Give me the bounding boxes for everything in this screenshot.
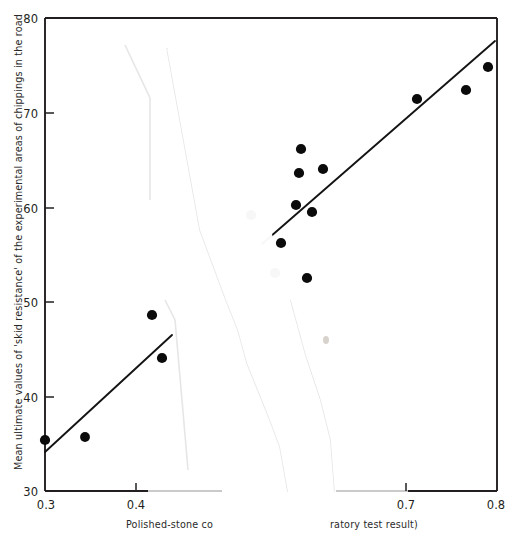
y-tick-label-30: 30 — [23, 485, 38, 499]
y-axis-title: Mean ultimate values of 'skid resistance… — [13, 14, 24, 470]
data-point — [296, 144, 306, 154]
right-group-fit-line — [262, 41, 495, 244]
data-point — [461, 85, 471, 95]
data-point — [80, 432, 90, 442]
x-tick-label-0-4: 0.4 — [127, 498, 145, 512]
x-axis-tick-labels: 0.3 0.4 0.7 0.8 — [37, 498, 505, 512]
scatter-points-right-group — [246, 62, 493, 283]
data-point — [147, 310, 157, 320]
data-point — [318, 164, 328, 174]
x-axis-title-left-fragment: Polished-stone co — [126, 519, 213, 530]
data-point — [412, 94, 422, 104]
y-tick-label-50: 50 — [23, 296, 38, 310]
overlay-speck — [323, 336, 329, 344]
data-point — [276, 238, 286, 248]
scan-fold-overlay — [125, 40, 334, 492]
overlay-fold-edge-upper-left — [125, 45, 150, 200]
x-axis-ticks — [136, 483, 406, 491]
data-point — [483, 62, 493, 72]
x-tick-label-0-7: 0.7 — [397, 498, 415, 512]
data-point — [302, 273, 312, 283]
scatter-plot-figure: 80 70 60 50 40 30 0.3 0.4 0.7 0.8 Polish… — [0, 0, 516, 548]
plot-canvas: 80 70 60 50 40 30 0.3 0.4 0.7 0.8 Polish… — [0, 0, 516, 548]
data-point — [294, 168, 304, 178]
y-tick-label-40: 40 — [23, 391, 38, 405]
y-tick-label-60: 60 — [23, 202, 38, 216]
x-tick-label-0-8: 0.8 — [487, 498, 505, 512]
y-tick-label-70: 70 — [23, 107, 38, 121]
x-axis-title-right-fragment: ratory test result) — [330, 519, 418, 530]
data-point — [291, 200, 301, 210]
left-group-fit-line — [45, 335, 172, 452]
y-tick-label-80: 80 — [23, 12, 38, 26]
data-point — [40, 435, 50, 445]
data-point — [157, 353, 167, 363]
data-point — [307, 207, 317, 217]
overlay-fold-edge-lower-left — [165, 300, 188, 470]
y-axis-tick-labels: 80 70 60 50 40 30 — [23, 12, 38, 499]
x-tick-label-0-3: 0.3 — [37, 498, 55, 512]
y-axis-ticks — [45, 18, 54, 491]
scatter-points-left-group — [40, 310, 167, 445]
